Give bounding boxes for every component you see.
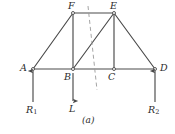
member-E-D	[114, 13, 155, 69]
figure-caption: (a)	[82, 116, 94, 125]
reaction-R2-label: R2	[148, 105, 159, 116]
joint-marker-e	[113, 12, 116, 15]
joint-label-b: B	[64, 72, 71, 82]
member-A-F	[33, 13, 73, 69]
truss-members	[33, 13, 155, 69]
joint-label-e: E	[110, 1, 117, 11]
load-L-label: L	[69, 104, 75, 114]
joint-marker-d	[154, 68, 157, 71]
member-B-E	[73, 13, 114, 69]
force-arrows	[33, 71, 155, 102]
joint-marker-f	[72, 12, 75, 15]
joint-marker-b	[72, 68, 75, 71]
joint-label-f: F	[68, 1, 75, 11]
joint-label-c: C	[108, 72, 115, 82]
reaction-R1-label: R1	[26, 105, 37, 116]
truss-figure: ABCDEFR1LR2 (a)	[0, 0, 175, 134]
joint-label-a: A	[20, 63, 27, 73]
joint-marker-a	[32, 68, 35, 71]
section-cut-line	[88, 6, 97, 90]
section-cut-group	[88, 6, 97, 90]
joint-label-d: D	[160, 63, 168, 73]
